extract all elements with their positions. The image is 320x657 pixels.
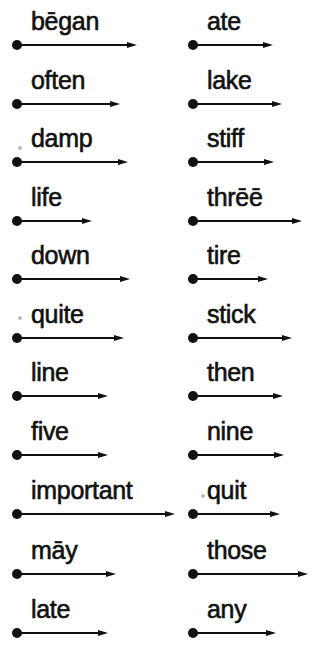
- word-label: tire: [207, 243, 241, 268]
- word-label: ate: [207, 9, 241, 34]
- arrowhead-icon: [266, 630, 276, 636]
- arrowhead-icon: [127, 42, 137, 48]
- word-label: stick: [207, 302, 256, 327]
- arrow-line: [193, 220, 294, 222]
- arrow-line: [193, 44, 265, 46]
- arrow-line: [193, 454, 276, 456]
- arrow-line: [17, 44, 129, 46]
- arrowhead-icon: [292, 218, 302, 224]
- word-label: nine: [207, 419, 253, 444]
- arrow-line: [17, 337, 116, 339]
- word-label: māy: [31, 538, 77, 563]
- word-label: quit: [207, 478, 246, 503]
- arrowhead-icon: [98, 393, 108, 399]
- arrow-line: [17, 513, 167, 515]
- scan-speck: [201, 494, 205, 498]
- arrowhead-icon: [263, 42, 273, 48]
- arrowhead-icon: [98, 630, 108, 636]
- arrow-line: [17, 278, 122, 280]
- arrowhead-icon: [114, 335, 124, 341]
- word-label: stiff: [207, 126, 244, 151]
- word-label: line: [31, 360, 69, 385]
- arrow-line: [193, 395, 275, 397]
- arrow-line: [193, 103, 274, 105]
- arrow-line: [17, 395, 100, 397]
- word-label: bēgan: [31, 9, 99, 34]
- arrowhead-icon: [272, 101, 282, 107]
- arrowhead-icon: [165, 511, 175, 517]
- word-label: those: [207, 538, 267, 563]
- arrow-line: [17, 161, 120, 163]
- word-label: then: [207, 360, 254, 385]
- word-label: life: [31, 185, 62, 210]
- arrow-line: [193, 573, 300, 575]
- arrowhead-icon: [110, 101, 120, 107]
- arrow-line: [17, 454, 100, 456]
- arrowhead-icon: [298, 571, 308, 577]
- arrow-line: [193, 278, 260, 280]
- word-label: often: [31, 68, 85, 93]
- arrow-line: [193, 632, 268, 634]
- arrowhead-icon: [282, 335, 292, 341]
- arrowhead-icon: [264, 159, 274, 165]
- word-label: damp: [31, 126, 92, 151]
- arrow-line: [17, 103, 112, 105]
- arrowhead-icon: [270, 511, 280, 517]
- word-label: any: [207, 597, 246, 622]
- arrow-line: [193, 513, 272, 515]
- word-label: lake: [207, 68, 252, 93]
- word-label: quite: [31, 302, 84, 327]
- arrowhead-icon: [82, 218, 92, 224]
- word-label: five: [31, 419, 69, 444]
- arrowhead-icon: [98, 452, 108, 458]
- scan-speck: [18, 146, 22, 150]
- word-label: important: [31, 478, 133, 503]
- arrow-line: [17, 632, 100, 634]
- arrowhead-icon: [258, 276, 268, 282]
- arrowhead-icon: [118, 159, 128, 165]
- scan-speck: [18, 316, 22, 320]
- arrow-line: [17, 573, 108, 575]
- word-label: late: [31, 597, 70, 622]
- arrowhead-icon: [106, 571, 116, 577]
- arrow-line: [193, 161, 266, 163]
- word-label: thrēē: [207, 185, 262, 210]
- arrow-line: [17, 220, 84, 222]
- arrowhead-icon: [273, 393, 283, 399]
- arrow-line: [193, 337, 284, 339]
- arrowhead-icon: [274, 452, 284, 458]
- word-label: down: [31, 243, 90, 268]
- arrowhead-icon: [120, 276, 130, 282]
